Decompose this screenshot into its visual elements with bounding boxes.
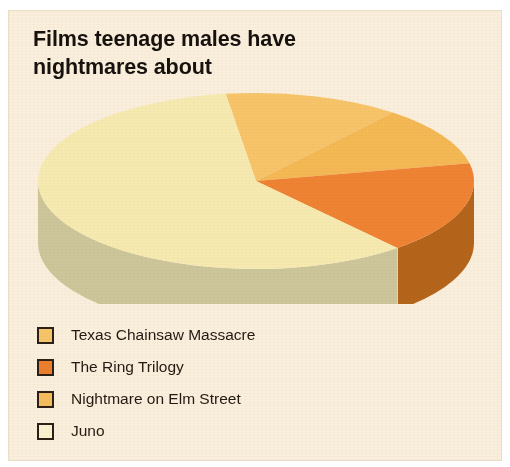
pie-chart <box>9 89 502 304</box>
legend-item-label: The Ring Trilogy <box>71 358 184 376</box>
pie-3d-tops <box>38 93 474 269</box>
legend-swatch-icon <box>37 327 54 344</box>
pie-chart-svg <box>9 89 502 304</box>
legend-item[interactable]: Texas Chainsaw Massacre <box>37 319 457 351</box>
legend-swatch-icon <box>37 391 54 408</box>
legend-item[interactable]: The Ring Trilogy <box>37 351 457 383</box>
legend-item[interactable]: Juno <box>37 415 457 447</box>
chart-title-line-2: nightmares about <box>33 54 363 82</box>
legend-item[interactable]: Nightmare on Elm Street <box>37 383 457 415</box>
legend-item-label: Juno <box>71 422 105 440</box>
chart-title-line-1: Films teenage males have <box>33 27 296 51</box>
chart-legend: Texas Chainsaw MassacreThe Ring TrilogyN… <box>37 319 457 447</box>
chart-title: Films teenage males have nightmares abou… <box>33 26 363 81</box>
legend-item-label: Nightmare on Elm Street <box>71 390 241 408</box>
legend-swatch-icon <box>37 423 54 440</box>
chart-figure: Films teenage males have nightmares abou… <box>8 10 502 461</box>
legend-swatch-icon <box>37 359 54 376</box>
legend-item-label: Texas Chainsaw Massacre <box>71 326 255 344</box>
